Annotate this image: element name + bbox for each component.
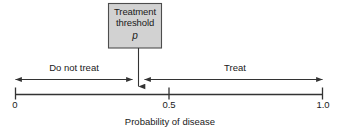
threshold-label-line1: Treatment xyxy=(114,6,156,17)
axis-tick-label-0: 0 xyxy=(5,100,25,111)
axis-tick-label-0point5: 0.5 xyxy=(156,100,182,111)
region-label-do-not-treat: Do not treat xyxy=(22,63,126,74)
threshold-callout-label: Treatment threshold p xyxy=(108,7,162,41)
treatment-threshold-figure: Treatment threshold p Do not treat Treat… xyxy=(0,0,339,137)
region-label-treat: Treat xyxy=(160,63,310,74)
threshold-label-line2: threshold xyxy=(116,17,154,28)
axis-tick-label-1point0: 1.0 xyxy=(310,100,336,111)
axis-title: Probability of disease xyxy=(70,117,270,128)
threshold-symbol: p xyxy=(108,30,162,41)
